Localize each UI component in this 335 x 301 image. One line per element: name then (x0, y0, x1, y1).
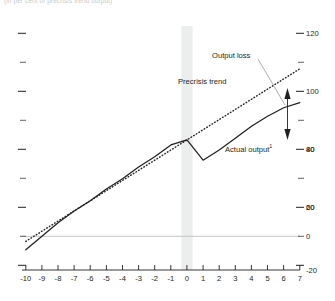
y-axis-right-ticks (296, 33, 304, 265)
annotation-actual-output: Actual output1 (225, 143, 272, 154)
series-actual-output (26, 103, 300, 250)
annotation-actual-output-footnote-marker: 1 (269, 143, 272, 149)
y-axis-left-ticks (18, 33, 26, 265)
y-tick-label-100: 100 (306, 87, 319, 96)
output-loss-chart: (in per cent of precrisis trend output) (0, 0, 335, 301)
annotation-actual-output-text: Actual output (225, 145, 269, 154)
output-loss-arrow (284, 88, 290, 140)
output-loss-leader-line (258, 59, 285, 105)
x-tick-label-7: 7 (291, 274, 309, 283)
annotation-precrisis-trend: Precrisis trend (178, 77, 227, 86)
y-tick-label-0: 0 (306, 232, 310, 241)
annotation-output-loss: Output loss (212, 51, 250, 60)
y-tick-label-120: 120 (306, 29, 319, 38)
x-axis-ticks (26, 265, 300, 270)
y-tick-label-20: 20 (306, 203, 314, 212)
crisis-period-band (181, 26, 192, 270)
chart-plot-area (0, 0, 335, 301)
y-tick-label-40: 40 (306, 145, 314, 154)
